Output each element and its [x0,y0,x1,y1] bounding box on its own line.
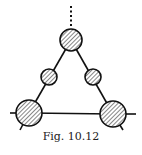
bottom-right-blob [100,101,126,127]
right-mid-blob [85,69,101,85]
top-vertex-blob [60,29,82,51]
figure-caption: Fig. 10.12 [0,130,142,143]
bottom-left-blob [16,100,42,126]
left-mid-blob [41,69,57,85]
